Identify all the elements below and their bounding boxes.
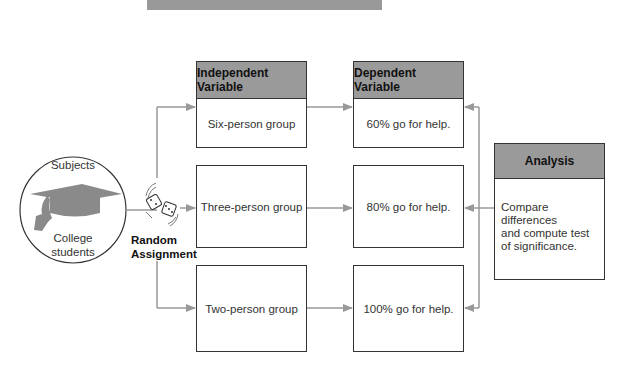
dv-result: 80% go for help. [354, 166, 463, 247]
dv-header: Dependent Variable [354, 62, 463, 99]
iv-box-2: Three-person group [196, 165, 307, 248]
group-label-line1: College [33, 231, 113, 245]
analysis-body: Compare differences and compute test of … [495, 179, 604, 253]
random-assignment-line2: Assignment [131, 247, 197, 261]
dv-result: 60% go for help. [354, 99, 463, 148]
analysis-line2: and compute test [501, 227, 589, 240]
dv-box-1: Dependent Variable 60% go for help. [353, 61, 464, 148]
dv-box-2: 80% go for help. [353, 165, 464, 248]
iv-condition: Six-person group [197, 99, 306, 148]
analysis-line1: Compare differences [501, 201, 604, 227]
iv-box-3: Two-person group [196, 265, 307, 352]
iv-condition: Two-person group [197, 266, 306, 351]
dv-box-3: 100% go for help. [353, 265, 464, 352]
analysis-header: Analysis [495, 144, 604, 179]
iv-box-1: Independent Variable Six-person group [196, 61, 307, 148]
dice-icon [146, 183, 178, 226]
iv-condition: Three-person group [197, 166, 306, 247]
subjects-label: Subjects [38, 159, 108, 171]
analysis-box: Analysis Compare differences and compute… [494, 143, 605, 280]
analysis-line3: of significance. [501, 240, 577, 253]
group-label: College students [33, 231, 113, 259]
random-assignment-line1: Random [131, 233, 197, 247]
group-label-line2: students [33, 245, 113, 259]
iv-header: Independent Variable [197, 62, 306, 99]
random-assignment-label: Random Assignment [130, 233, 198, 261]
dv-result: 100% go for help. [354, 266, 463, 351]
